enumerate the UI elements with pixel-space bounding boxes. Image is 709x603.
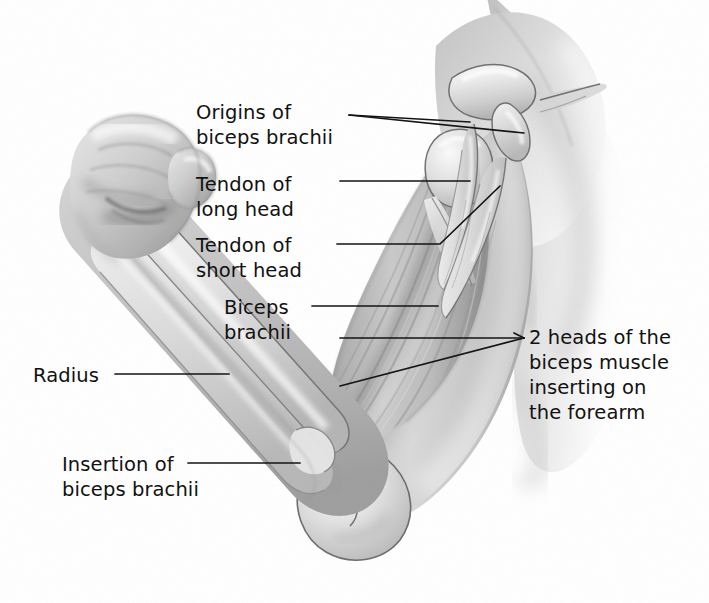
label-insertion-of-biceps-brachii: Insertion of biceps brachii (62, 452, 199, 502)
label-tendon-of-short-head: Tendon of short head (196, 233, 302, 283)
anatomy-figure: Origins of biceps brachii Tendon of long… (0, 0, 709, 603)
label-biceps-brachii: Biceps brachii (224, 295, 291, 345)
label-tendon-of-long-head: Tendon of long head (196, 172, 294, 222)
label-two-heads-inserting-on-forearm: 2 heads of the biceps muscle inserting o… (529, 325, 671, 425)
paper-grain (0, 0, 709, 603)
label-radius: Radius (33, 363, 99, 388)
label-origins-of-biceps-brachii: Origins of biceps brachii (196, 100, 333, 150)
anatomical-illustration (0, 0, 709, 603)
